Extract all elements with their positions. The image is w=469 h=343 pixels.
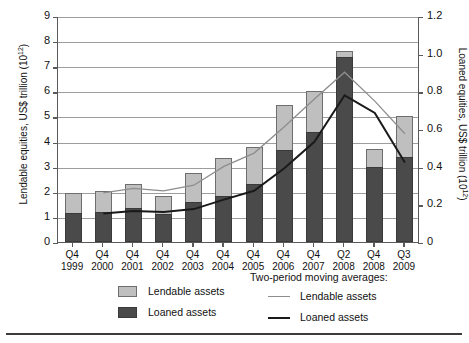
y-tick-mark-left: [53, 143, 58, 144]
y-tick-mark-right: [418, 205, 423, 206]
x-axis-label-quarter: Q4: [357, 249, 391, 261]
x-axis-label: Q42001: [115, 249, 149, 273]
y-tick-mark-left: [53, 117, 58, 118]
x-tick-mark: [222, 243, 223, 247]
legend-label: Lendable assets: [300, 290, 376, 302]
x-tick-mark: [253, 243, 254, 247]
x-axis-label: Q22008: [327, 249, 361, 273]
moving-average-lines: [58, 17, 420, 243]
x-axis-label-year: 2002: [146, 261, 180, 273]
x-axis-label-year: 2001: [115, 261, 149, 273]
y-tick-mark-left: [53, 67, 58, 68]
x-tick-mark: [192, 243, 193, 247]
legend-line-swatch: [268, 296, 290, 297]
y-tick-mark-left: [53, 218, 58, 219]
y-axis-left-title-text: Lendable equities, US$ trillion (10: [18, 55, 29, 205]
x-axis-label-quarter: Q4: [55, 249, 89, 261]
x-axis-label: Q42003: [176, 249, 210, 273]
y-tick-label-right: 1.2: [427, 9, 451, 21]
x-axis-label-year: 2009: [387, 261, 421, 273]
y-tick-label-left: 8: [36, 34, 50, 46]
y-tick-label-left: 5: [36, 109, 50, 121]
y-tick-mark-right: [418, 243, 423, 244]
y-tick-mark-left: [53, 243, 58, 244]
x-axis-label: Q41999: [55, 249, 89, 273]
y-axis-left-title-exponent: 12: [17, 47, 24, 55]
x-tick-mark: [102, 243, 103, 247]
legend-label: Loaned assets: [148, 306, 216, 318]
y-tick-label-right: 0.4: [427, 160, 451, 172]
y-tick-label-left: 3: [36, 160, 50, 172]
y-axis-right-title-tail: ): [457, 197, 468, 200]
y-tick-label-left: 1: [36, 210, 50, 222]
y-tick-label-left: 4: [36, 135, 50, 147]
y-tick-mark-left: [53, 168, 58, 169]
x-axis-label-quarter: Q4: [296, 249, 330, 261]
y-axis-right-title-text: Loaned equities, US$ trillion (10: [457, 48, 468, 190]
y-tick-label-left: 0: [36, 235, 50, 247]
x-tick-mark: [403, 243, 404, 247]
y-tick-label-left: 7: [36, 59, 50, 71]
y-tick-mark-left: [53, 92, 58, 93]
x-axis-label-year: 2000: [85, 261, 119, 273]
y-tick-label-right: 0.8: [427, 84, 451, 96]
y-axis-right-title: Loaned equities, US$ trillion (1012): [457, 19, 469, 229]
x-tick-mark: [343, 243, 344, 247]
y-axis-right-title-exponent: 12: [462, 189, 469, 197]
x-tick-mark: [132, 243, 133, 247]
x-tick-mark: [283, 243, 284, 247]
y-tick-mark-right: [418, 92, 423, 93]
x-axis-label-year: 2003: [176, 261, 210, 273]
x-axis-label: Q42008: [357, 249, 391, 273]
legend-moving-average-title: Two-period moving averages:: [250, 271, 388, 283]
bottom-rule: [6, 333, 462, 335]
y-tick-mark-left: [53, 42, 58, 43]
x-axis-label-year: 2004: [206, 261, 240, 273]
y-tick-mark-right: [418, 55, 423, 56]
x-tick-mark: [313, 243, 314, 247]
legend-label: Lendable assets: [148, 285, 224, 297]
x-axis-label-quarter: Q4: [206, 249, 240, 261]
x-axis-label: Q42002: [146, 249, 180, 273]
x-axis-label-quarter: Q3: [387, 249, 421, 261]
y-tick-label-right: 1.0: [427, 47, 451, 59]
x-axis-label-quarter: Q4: [115, 249, 149, 261]
y-tick-mark-left: [53, 17, 58, 18]
x-tick-mark: [72, 243, 73, 247]
x-tick-mark: [162, 243, 163, 247]
x-axis-label: Q42005: [236, 249, 270, 273]
y-tick-mark-left: [53, 193, 58, 194]
x-axis-label: Q42006: [266, 249, 300, 273]
y-tick-label-right: 0.6: [427, 122, 451, 134]
x-axis-label: Q42007: [296, 249, 330, 273]
y-tick-label-left: 9: [36, 9, 50, 21]
x-axis-label-year: 1999: [55, 261, 89, 273]
plot-area: [57, 17, 419, 243]
x-axis-label-quarter: Q4: [146, 249, 180, 261]
x-axis-label-quarter: Q2: [327, 249, 361, 261]
x-axis-label: Q42000: [85, 249, 119, 273]
legend: Lendable assetsLoaned assetsTwo-period m…: [0, 273, 468, 329]
y-tick-label-right: 0.2: [427, 197, 451, 209]
y-tick-mark-right: [418, 168, 423, 169]
x-axis-label: Q42004: [206, 249, 240, 273]
x-axis-label-quarter: Q4: [85, 249, 119, 261]
y-tick-mark-right: [418, 17, 423, 18]
line-lendable-moving-average: [103, 72, 405, 193]
legend-label: Loaned assets: [300, 311, 368, 323]
y-axis-left-title-tail: ): [18, 44, 29, 47]
legend-line-swatch: [268, 317, 290, 319]
y-tick-mark-right: [418, 130, 423, 131]
legend-swatch-loan: [118, 307, 137, 318]
x-tick-mark: [373, 243, 374, 247]
x-axis-label-quarter: Q4: [176, 249, 210, 261]
y-tick-label-right: 0: [427, 235, 451, 247]
y-tick-label-left: 6: [36, 84, 50, 96]
legend-swatch-lend: [118, 286, 137, 297]
x-axis-label-quarter: Q4: [266, 249, 300, 261]
line-loaned-moving-average: [103, 95, 405, 213]
x-axis-label-quarter: Q4: [236, 249, 270, 261]
y-axis-left-title: Lendable equities, US$ trillion (1012): [17, 19, 29, 229]
x-axis-label: Q32009: [387, 249, 421, 273]
